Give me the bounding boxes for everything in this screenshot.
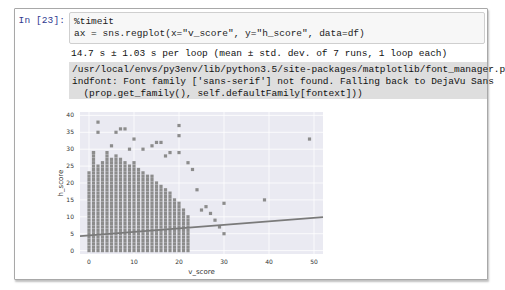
stderr-warning-output: /usr/local/envs/py3env/lib/python3.5/sit…	[69, 62, 487, 99]
stderr-line: (prop.get_family(), self.defaultFamily[f…	[72, 88, 363, 99]
timeit-output: 14.7 s ± 1.03 s per loop (mean ± std. de…	[71, 48, 447, 59]
code-line-magic: %timeit	[74, 16, 114, 27]
code-input-area[interactable]: %timeit ax = sns.regplot(x="v_score", y=…	[69, 12, 485, 44]
code-line-regplot: ax = sns.regplot(x="v_score", y="h_score…	[74, 28, 365, 39]
stderr-line: indfont: Font family ['sans-serif'] not …	[72, 76, 494, 87]
input-prompt: In [23]:	[17, 15, 65, 26]
stderr-line: /usr/local/envs/py3env/lib/python3.5/sit…	[72, 64, 505, 75]
notebook-cell[interactable]: In [23]: %timeit ax = sns.regplot(x="v_s…	[14, 8, 488, 280]
